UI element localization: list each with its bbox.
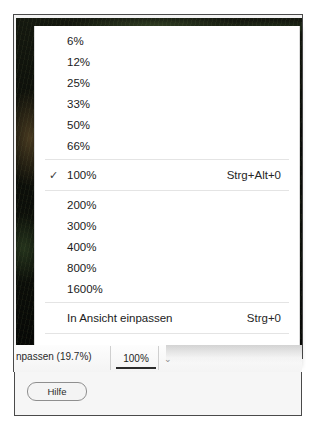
menu-item-zoom-800[interactable]: 800%	[35, 257, 299, 278]
dialog-footer: Hilfe	[14, 372, 302, 416]
menu-item-label: 300%	[67, 220, 96, 232]
menu-item-zoom-25[interactable]: 25%	[35, 72, 299, 93]
menu-separator	[45, 159, 289, 160]
menu-item-zoom-200[interactable]: 200%	[35, 194, 299, 215]
menu-item-label: 200%	[67, 199, 96, 211]
menu-item-label: 6%	[67, 35, 84, 47]
menu-item-label: 50%	[67, 119, 90, 131]
menu-item-zoom-400[interactable]: 400%	[35, 236, 299, 257]
menu-item-shortcut: Strg+Alt+0	[227, 169, 287, 181]
menu-item-zoom-300[interactable]: 300%	[35, 215, 299, 236]
checkmark-icon: ✓	[47, 170, 59, 181]
menu-item-label: 400%	[67, 241, 96, 253]
menu-item-label: 25%	[67, 77, 90, 89]
menu-item-shortcut: Strg+0	[247, 312, 287, 324]
menu-item-zoom-100[interactable]: ✓ 100% Strg+Alt+0	[35, 163, 299, 187]
statusbar-divider	[110, 346, 111, 370]
menu-item-zoom-50[interactable]: 50%	[35, 114, 299, 135]
zoom-statusbar: npassen (19.7%) 100% ⌄	[14, 345, 302, 372]
fit-zoom-label[interactable]: npassen (19.7%)	[16, 351, 92, 362]
menu-item-fit-to-view[interactable]: In Ansicht einpassen Strg+0	[35, 306, 299, 330]
menu-item-label: In Ansicht einpassen	[67, 312, 173, 324]
chevron-down-icon[interactable]: ⌄	[162, 353, 174, 365]
menu-item-zoom-1600[interactable]: 1600%	[35, 278, 299, 299]
menu-item-zoom-66[interactable]: 66%	[35, 135, 299, 156]
menu-separator	[45, 333, 289, 334]
menu-separator	[45, 190, 289, 191]
statusbar-divider	[158, 346, 159, 370]
help-button[interactable]: Hilfe	[27, 382, 87, 401]
zoom-level-menu[interactable]: 6% 12% 25% 33% 50% 66% ✓ 100% Strg+Alt+0…	[34, 26, 300, 365]
menu-item-zoom-12[interactable]: 12%	[35, 51, 299, 72]
menu-item-label: 800%	[67, 262, 96, 274]
menu-item-zoom-6[interactable]: 6%	[35, 30, 299, 51]
tab-zoom-100[interactable]: 100%	[114, 345, 158, 371]
menu-separator	[45, 302, 289, 303]
menu-item-label: 12%	[67, 56, 90, 68]
screenshot-canvas: 6% 12% 25% 33% 50% 66% ✓ 100% Strg+Alt+0…	[0, 0, 328, 430]
menu-item-zoom-33[interactable]: 33%	[35, 93, 299, 114]
scan-artifact	[166, 345, 302, 363]
menu-item-label: 100%	[67, 169, 96, 181]
menu-item-label: 66%	[67, 140, 90, 152]
menu-item-label: 1600%	[67, 283, 103, 295]
menu-item-label: 33%	[67, 98, 90, 110]
